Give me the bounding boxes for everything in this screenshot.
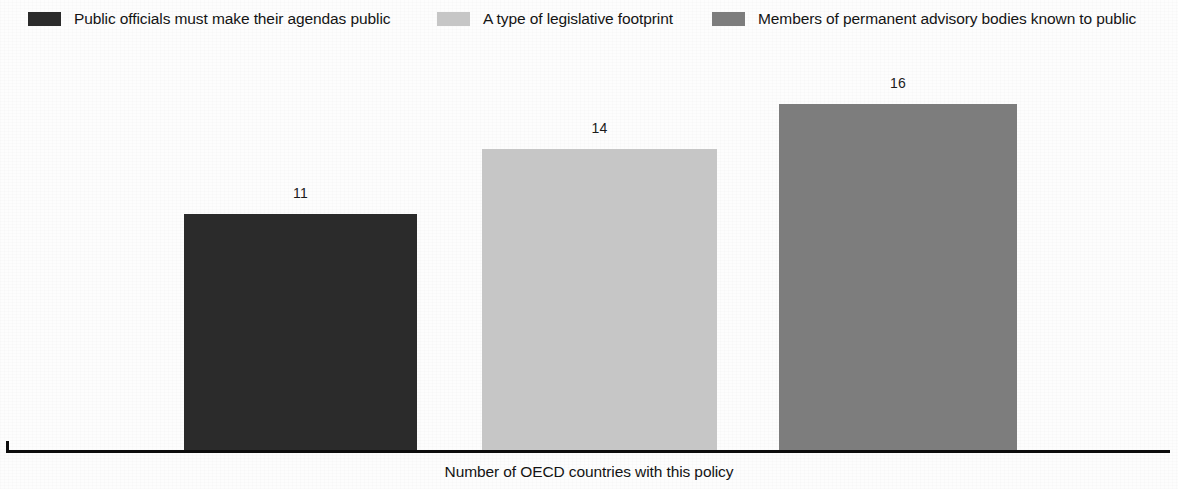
plot-area: 11 14 16 Number of OECD countries with t… <box>0 0 1178 489</box>
x-axis-label: Number of OECD countries with this polic… <box>0 462 1178 482</box>
chart-figure: Public officials must make their agendas… <box>0 0 1178 489</box>
bar-value-label: 11 <box>184 186 417 200</box>
bar-advisory-bodies <box>779 104 1017 452</box>
bar-public-officials-agendas <box>184 214 417 452</box>
bar-legislative-footprint <box>482 149 717 452</box>
bar-value-label: 14 <box>482 121 717 135</box>
x-axis-line <box>6 450 1170 453</box>
bar-value-label: 16 <box>779 76 1017 90</box>
